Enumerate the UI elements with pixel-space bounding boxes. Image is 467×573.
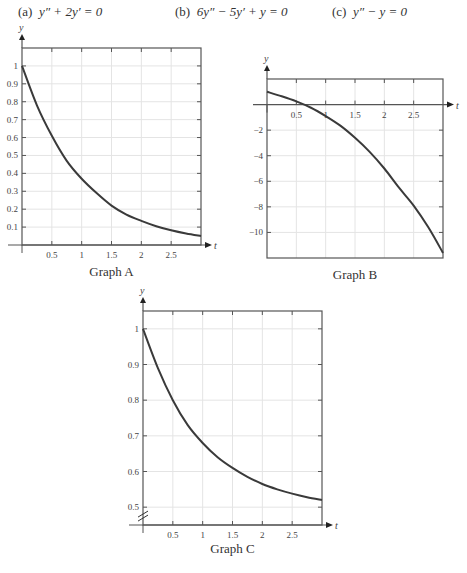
graphs-canvas: yt0.511.522.50.10.20.30.40.50.60.70.80.9…	[0, 0, 467, 573]
y-axis-arrow-icon	[140, 297, 146, 303]
y-tick-label: 0.3	[7, 186, 19, 196]
x-tick-label: 1	[79, 250, 84, 260]
x-tick-label: 1.5	[227, 530, 239, 540]
graph-b: yt0.511.522.5−2−4−6−8−10Graph B	[249, 53, 459, 282]
y-axis-arrow-icon	[19, 34, 25, 40]
x-tick-label: 0.5	[46, 250, 58, 260]
y-axis-label: y	[263, 53, 269, 64]
y-tick-label: −4	[253, 151, 263, 161]
y-tick-label: 1	[14, 61, 19, 71]
x-tick-label: 0.5	[167, 530, 179, 540]
y-tick-label: 0.8	[128, 395, 140, 405]
y-tick-label: 0.7	[7, 115, 19, 125]
y-axis-arrow-icon	[264, 65, 270, 71]
graph-caption: Graph A	[89, 264, 134, 279]
t-axis-arrow-icon	[447, 102, 454, 108]
graph-caption: Graph B	[333, 267, 378, 282]
y-axis-label: y	[18, 22, 24, 33]
y-tick-label: 0.5	[7, 150, 19, 160]
y-tick-label: 0.2	[7, 204, 18, 214]
graph-caption: Graph C	[210, 541, 254, 556]
x-tick-label: 1.5	[106, 250, 118, 260]
x-tick-label: 2	[382, 110, 387, 120]
x-tick-label: 2.5	[287, 530, 299, 540]
y-tick-label: 0.6	[7, 133, 19, 143]
y-tick-label: 1	[135, 324, 140, 334]
graph-c: yt0.511.522.50.50.60.70.80.91Graph C	[128, 285, 338, 556]
y-axis-label: y	[139, 285, 145, 296]
x-tick-label: 0.5	[291, 110, 303, 120]
t-axis-arrow-icon	[326, 522, 333, 528]
y-tick-label: −10	[249, 227, 264, 237]
x-tick-label: 2	[139, 250, 144, 260]
graph-a: yt0.511.522.50.10.20.30.40.50.60.70.80.9…	[7, 22, 217, 279]
x-axis-label: t	[456, 100, 459, 111]
y-tick-label: 0.9	[128, 360, 140, 370]
y-tick-label: −2	[253, 125, 263, 135]
x-axis-label: t	[214, 240, 217, 251]
y-tick-label: 0.5	[128, 502, 140, 512]
x-tick-label: 1	[200, 530, 205, 540]
x-axis-label: t	[335, 520, 338, 531]
x-tick-label: 2	[260, 530, 265, 540]
y-tick-label: 0.8	[7, 97, 19, 107]
x-tick-label: 2.5	[166, 250, 178, 260]
x-tick-label: 1.5	[349, 110, 361, 120]
y-tick-label: 0.4	[7, 168, 19, 178]
y-tick-label: −8	[253, 202, 263, 212]
y-tick-label: −6	[253, 176, 263, 186]
t-axis-arrow-icon	[205, 242, 212, 248]
x-tick-label: 2.5	[408, 110, 420, 120]
y-tick-label: 0.6	[128, 467, 140, 477]
y-tick-label: 0.7	[128, 431, 140, 441]
y-tick-label: 0.1	[7, 222, 18, 232]
y-tick-label: 0.9	[7, 79, 19, 89]
